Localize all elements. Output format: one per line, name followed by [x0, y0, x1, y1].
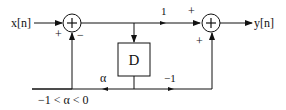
right-summing-junction [202, 14, 220, 32]
left-summer-input-sign: + [55, 27, 62, 41]
forward-mid-arrow-icon [160, 21, 166, 25]
allpass-filter-block-diagram: x[n] + − 1 + D α −1 + y[n] −1 < α < 0 [0, 0, 286, 110]
alpha-arrow-icon [102, 87, 108, 91]
right-summer-bottom-sign: + [196, 34, 203, 48]
right-summer-top-sign: + [188, 4, 195, 18]
minus-one-gain-label: −1 [164, 72, 176, 84]
forward-gain-label: 1 [161, 5, 167, 17]
left-summer-feedback-sign: − [77, 28, 84, 42]
delay-label: D [129, 52, 140, 68]
input-label: x[n] [11, 16, 31, 30]
alpha-gain-label: α [100, 71, 107, 85]
alpha-constraint-label: −1 < α < 0 [38, 93, 89, 107]
output-label: y[n] [254, 16, 274, 30]
minus-one-arrow-icon [168, 87, 174, 91]
